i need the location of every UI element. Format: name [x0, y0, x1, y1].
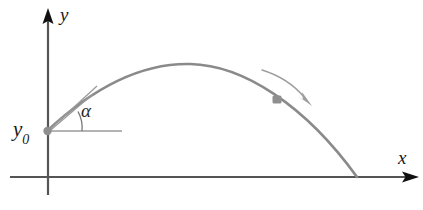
launch-angle-label: α — [81, 101, 91, 120]
figure-canvas — [0, 0, 423, 210]
moving-particle-marker — [273, 96, 282, 104]
y-axis-label: y — [60, 5, 68, 24]
direction-of-motion-arrow-shaft — [262, 70, 304, 97]
initial-height-subscript: 0 — [22, 132, 29, 147]
direction-of-motion-arrowhead — [298, 92, 312, 106]
trajectory-curve — [47, 64, 357, 177]
launch-point-marker — [43, 127, 51, 135]
initial-height-label: y0 — [13, 119, 29, 144]
initial-height-symbol: y — [13, 117, 22, 141]
projectile-motion-figure: y x α y0 — [0, 0, 423, 210]
x-axis-label: x — [398, 148, 406, 167]
